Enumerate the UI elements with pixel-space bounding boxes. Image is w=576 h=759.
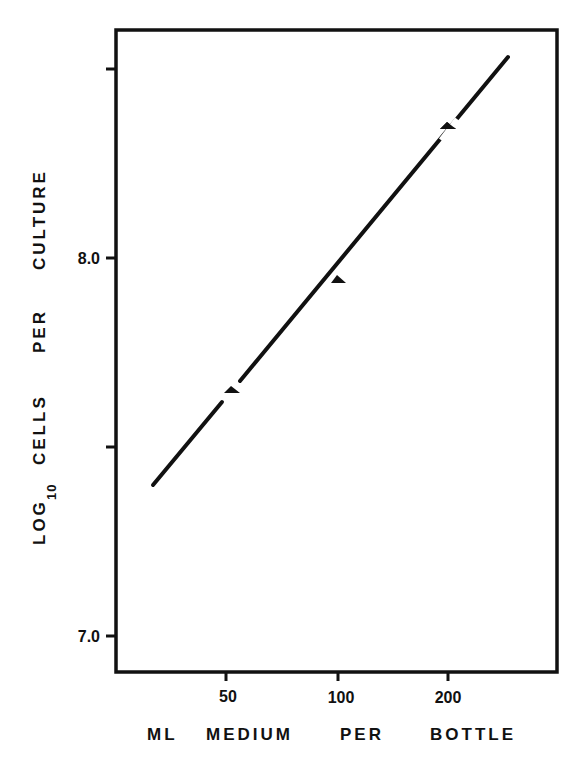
x-tick-label-50: 50 [219,688,237,705]
plot-frame [116,30,557,672]
x-axis-label: ML MEDIUM PER BOTTLE [147,725,516,744]
x-tick-label-100: 100 [328,689,355,706]
svg-text:CULTURE: CULTURE [30,169,49,270]
y-tick-label-7: 7.0 [78,628,100,645]
svg-text:PER: PER [30,309,49,353]
svg-text:ML: ML [147,725,178,744]
gap-200 [441,119,457,140]
svg-text:BOTTLE: BOTTLE [430,725,516,744]
svg-text:MEDIUM: MEDIUM [206,725,293,744]
data-point-50 [224,386,240,393]
data-point-100 [331,275,346,283]
svg-text:CELLS: CELLS [30,394,49,465]
svg-text:PER: PER [340,725,384,744]
y-axis-label: LOG 10 CELLS PER CULTURE [30,169,59,545]
svg-text:LOG: LOG [30,499,49,545]
svg-text:10: 10 [44,484,59,500]
x-tick-label-200: 200 [435,689,462,706]
y-tick-label-8: 8.0 [78,250,100,267]
chart: 8.0 7.0 50 100 200 ML MEDIUM PER BOTTLE … [0,0,576,759]
